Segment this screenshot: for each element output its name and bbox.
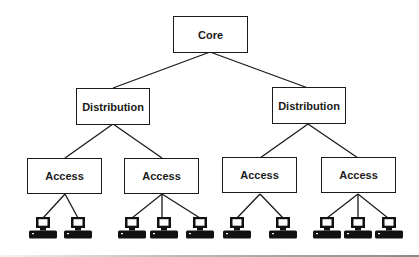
access-label: Access [240,169,279,181]
distribution-label: Distribution [278,100,340,112]
access-label: Access [45,170,84,182]
desktop-computer-icon [29,217,57,239]
desktop-computer-icon [223,217,251,239]
core-label: Core [198,29,223,41]
access-node-1: Access [27,158,102,194]
core-node: Core [173,16,248,53]
access-node-3: Access [222,157,297,193]
distribution-node-left: Distribution [76,88,150,125]
desktop-computer-icon [118,217,146,239]
desktop-computer-icon [186,217,214,239]
desktop-computer-icon [64,217,92,239]
desktop-computer-icon [269,217,297,239]
distribution-label: Distribution [82,101,144,113]
network-hierarchy-diagram: Core Distribution Distribution Access Ac… [0,0,419,257]
desktop-computer-icon [313,217,341,239]
desktop-computer-icon [150,217,178,239]
access-node-4: Access [321,157,396,193]
access-node-2: Access [124,158,199,194]
access-label: Access [142,170,181,182]
distribution-node-right: Distribution [272,87,346,124]
desktop-computer-icon [344,217,372,239]
access-label: Access [339,169,378,181]
desktop-computer-icon [375,217,403,239]
